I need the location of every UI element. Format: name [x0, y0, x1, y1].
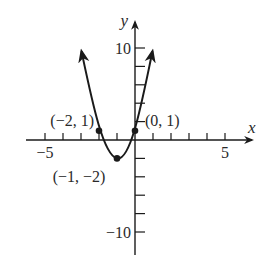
point-vertex: (−1, −2): [53, 155, 121, 186]
x-tick-label-max: 5: [221, 144, 229, 161]
x-axis-label: x: [247, 118, 256, 137]
y-tick-label-max: 10: [115, 40, 131, 57]
point-vertex-label: (−1, −2): [53, 168, 106, 186]
y-axis-label: y: [118, 11, 128, 30]
parabola-curve: [82, 51, 153, 158]
x-tick-label-min: −5: [36, 144, 53, 161]
y-axis: 10 −10 y: [106, 11, 145, 255]
point-left: (−2, 1): [50, 112, 102, 134]
point-left-label: (−2, 1): [50, 112, 94, 130]
point-right-label: (0, 1): [145, 112, 180, 130]
parabola-graph: −5 5 x 10 −10 y (−2, 1) (−1, −2): [0, 0, 278, 259]
y-tick-label-min: −10: [106, 224, 131, 241]
